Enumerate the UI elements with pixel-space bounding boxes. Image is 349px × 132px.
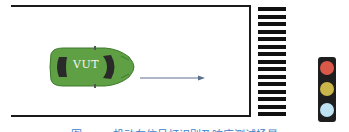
road-top-boundary [11, 5, 251, 7]
traffic-light [318, 57, 336, 122]
stop-line [249, 5, 251, 117]
crosswalk-stripe [258, 7, 286, 11]
crosswalk-stripe [258, 90, 286, 94]
vehicle-label: VUT [69, 58, 103, 71]
crosswalk-stripe [258, 112, 286, 116]
crosswalk [258, 6, 286, 118]
crosswalk-stripe [258, 67, 286, 71]
crosswalk-stripe [258, 37, 286, 41]
crosswalk-stripe [258, 82, 286, 86]
crosswalk-stripe [258, 105, 286, 109]
crosswalk-stripe [258, 75, 286, 79]
crosswalk-stripe [258, 30, 286, 34]
direction-arrow [140, 66, 206, 72]
figure-caption: 图 x-xx 机动车信号灯识别及响应测试场景 [0, 126, 349, 132]
test-scenario-diagram: VUT 图 x-xx 机动车信号灯识别及响应测试场景 [0, 0, 349, 132]
red-lamp-icon [320, 61, 334, 75]
crosswalk-stripe [258, 45, 286, 49]
road-bottom-boundary [11, 115, 251, 117]
crosswalk-stripe [258, 60, 286, 64]
crosswalk-stripe [258, 15, 286, 19]
green-lamp-icon [320, 103, 334, 117]
arrow-right-icon [140, 75, 206, 81]
crosswalk-stripe [258, 97, 286, 101]
yellow-lamp-icon [320, 82, 334, 96]
vehicle-under-test: VUT [45, 46, 135, 88]
crosswalk-stripe [258, 52, 286, 56]
crosswalk-stripe [258, 22, 286, 26]
